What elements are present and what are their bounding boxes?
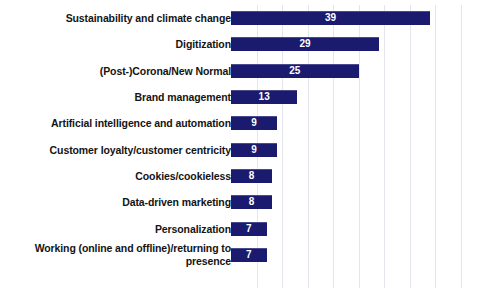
bar[interactable]: 25 <box>231 64 359 78</box>
category-label: Data-driven marketing <box>9 196 231 208</box>
bar-row: Digitization29 <box>0 31 478 57</box>
bar[interactable]: 8 <box>231 169 272 183</box>
bar-container: 9 <box>231 116 277 130</box>
bar-value-label: 8 <box>249 197 255 207</box>
bar-value-label: 7 <box>246 224 252 234</box>
category-label: Digitization <box>9 38 231 50</box>
category-label: Working (online and offline)/returning t… <box>9 242 231 267</box>
bar[interactable]: 7 <box>231 222 267 236</box>
bar[interactable]: 9 <box>231 143 277 157</box>
bar-value-label: 39 <box>325 13 336 23</box>
horizontal-bar-chart: Sustainability and climate change39Digit… <box>0 0 478 304</box>
bar-row: Personalization7 <box>0 215 478 241</box>
bar-container: 13 <box>231 90 297 104</box>
category-label: Personalization <box>9 223 231 235</box>
bar-row: Cookies/cookieless8 <box>0 163 478 189</box>
category-label: Customer loyalty/customer centricity <box>9 144 231 156</box>
category-label: (Post-)Corona/New Normal <box>9 65 231 77</box>
bar-value-label: 9 <box>251 145 257 155</box>
bar-container: 8 <box>231 195 272 209</box>
bar-value-label: 7 <box>246 250 252 260</box>
bar-container: 29 <box>231 37 379 51</box>
bar-row: Sustainability and climate change39 <box>0 5 478 31</box>
category-label: Brand management <box>9 91 231 103</box>
bar-container: 9 <box>231 143 277 157</box>
category-label: Sustainability and climate change <box>9 12 231 24</box>
bar-container: 7 <box>231 248 267 262</box>
bar[interactable]: 9 <box>231 116 277 130</box>
bar-row: Artificial intelligence and automation9 <box>0 110 478 136</box>
bar-row: Customer loyalty/customer centricity9 <box>0 136 478 162</box>
bar-value-label: 13 <box>259 92 270 102</box>
bar[interactable]: 13 <box>231 90 297 104</box>
bar-container: 39 <box>231 11 430 25</box>
bar-row: Brand management13 <box>0 84 478 110</box>
bar-row: Working (online and offline)/returning t… <box>0 242 478 268</box>
bar-container: 8 <box>231 169 272 183</box>
category-label: Artificial intelligence and automation <box>9 117 231 129</box>
bar-container: 7 <box>231 222 267 236</box>
bar-container: 25 <box>231 64 359 78</box>
bar-value-label: 9 <box>251 118 257 128</box>
bar-row: Data-driven marketing8 <box>0 189 478 215</box>
bar-rows: Sustainability and climate change39Digit… <box>0 5 478 288</box>
bar-value-label: 8 <box>249 171 255 181</box>
bar[interactable]: 8 <box>231 195 272 209</box>
bar-value-label: 25 <box>289 66 300 76</box>
bar[interactable]: 39 <box>231 11 430 25</box>
bar[interactable]: 29 <box>231 37 379 51</box>
bar-row: (Post-)Corona/New Normal25 <box>0 58 478 84</box>
bar-value-label: 29 <box>299 39 310 49</box>
category-label: Cookies/cookieless <box>9 170 231 182</box>
bar[interactable]: 7 <box>231 248 267 262</box>
